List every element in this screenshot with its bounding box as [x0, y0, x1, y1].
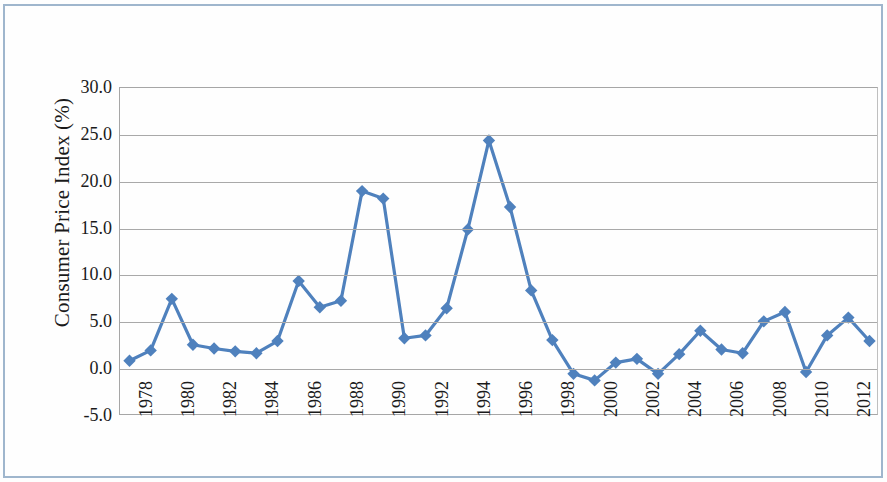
x-axis-tick-label: 1988	[347, 381, 368, 417]
x-axis-tick-label: 2000	[601, 381, 622, 417]
data-point-marker	[166, 293, 178, 305]
y-axis-tick-label: 10.0	[46, 264, 112, 285]
gridline	[120, 369, 877, 370]
x-axis-tick-label: 1992	[432, 381, 453, 417]
data-point-marker	[483, 134, 495, 146]
x-axis-tick-label: 1982	[220, 381, 241, 417]
x-axis-tick-label: 2004	[685, 381, 706, 417]
x-axis-tick-label: 1980	[178, 381, 199, 417]
data-point-marker	[779, 306, 791, 318]
x-axis-tick-label: 2008	[770, 381, 791, 417]
data-point-marker	[377, 192, 389, 204]
y-axis-tick-label: 0.0	[46, 358, 112, 379]
x-axis-tick-label: 1998	[558, 381, 579, 417]
x-axis-tick-label: 1978	[136, 381, 157, 417]
x-axis-tick-label: 1986	[305, 381, 326, 417]
gridline	[120, 275, 877, 276]
y-axis-tick-label: 15.0	[46, 217, 112, 238]
gridline	[120, 135, 877, 136]
chart-figure: Consumer Price Index (%) 30.025.020.015.…	[0, 0, 887, 482]
x-axis-tick-label: 2002	[643, 381, 664, 417]
data-point-marker	[398, 332, 410, 344]
data-point-marker	[187, 339, 199, 351]
data-point-marker	[504, 201, 516, 213]
plot-area	[119, 87, 878, 415]
x-axis-tick-labels: 1978198019821984198619881990199219941996…	[119, 417, 878, 482]
y-axis-tick-labels: 30.025.020.015.010.05.00.0-5.0	[46, 0, 112, 482]
y-axis-tick-label: 30.0	[46, 77, 112, 98]
data-point-marker	[123, 355, 135, 367]
data-point-marker	[335, 295, 347, 307]
data-point-marker	[144, 344, 156, 356]
data-point-marker	[525, 284, 537, 296]
data-point-marker	[356, 185, 368, 197]
y-axis-tick-label: 25.0	[46, 123, 112, 144]
line-series	[120, 88, 879, 416]
series-line	[130, 140, 870, 380]
gridline	[120, 182, 877, 183]
x-axis-tick-label: 1984	[262, 381, 283, 417]
gridline	[120, 229, 877, 230]
data-point-marker	[229, 345, 241, 357]
x-axis-tick-label: 2010	[812, 381, 833, 417]
data-point-marker	[208, 342, 220, 354]
y-axis-tick-label: -5.0	[46, 405, 112, 426]
x-axis-tick-label: 2012	[854, 381, 875, 417]
y-axis-tick-label: 20.0	[46, 170, 112, 191]
x-axis-tick-label: 1996	[516, 381, 537, 417]
y-axis-tick-label: 5.0	[46, 311, 112, 332]
x-axis-tick-label: 2006	[727, 381, 748, 417]
x-axis-tick-label: 1990	[389, 381, 410, 417]
x-axis-tick-label: 1994	[474, 381, 495, 417]
gridline	[120, 322, 877, 323]
